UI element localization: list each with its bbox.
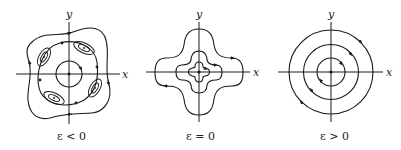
panel-eps-zero: x y ε = 0 bbox=[146, 8, 260, 143]
saddle-point bbox=[96, 66, 99, 69]
caption-eps-positive: ε > 0 bbox=[320, 130, 349, 143]
caption-eps-zero: ε = 0 bbox=[186, 130, 215, 143]
caption-eps-negative: ε < 0 bbox=[57, 130, 86, 143]
saddle-point bbox=[39, 79, 42, 82]
panel-eps-negative: x y bbox=[16, 8, 129, 143]
saddle-point bbox=[61, 42, 64, 45]
origin-center bbox=[330, 71, 333, 74]
island-left bbox=[35, 46, 54, 68]
island-bottom-left bbox=[42, 89, 66, 107]
y-axis-label: y bbox=[195, 8, 203, 21]
y-axis-label: y bbox=[65, 8, 73, 21]
origin-center bbox=[197, 70, 200, 73]
panel-eps-positive: x y ε > 0 bbox=[278, 8, 393, 143]
y-axis-label: y bbox=[327, 8, 335, 21]
x-axis-label: x bbox=[122, 68, 129, 81]
phase-portraits-figure: x y bbox=[0, 0, 401, 150]
x-axis-label: x bbox=[253, 66, 260, 79]
x-axis-label: x bbox=[386, 66, 393, 79]
origin-center bbox=[68, 73, 71, 76]
island-top-right bbox=[72, 39, 96, 57]
saddle-point bbox=[75, 102, 78, 105]
